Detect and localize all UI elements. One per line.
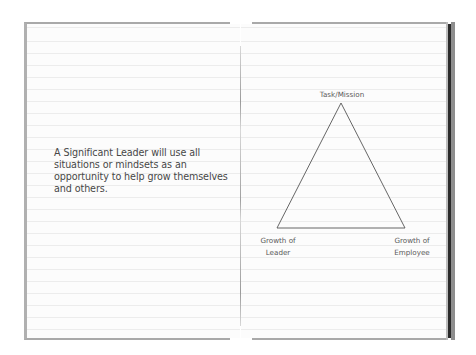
vertex-label-task-mission: Task/Mission	[316, 89, 368, 101]
label-line: Leader	[252, 247, 304, 259]
vertex-label-growth-of-employee: Growth of Employee	[382, 235, 442, 259]
right-page	[241, 22, 446, 340]
vertex-label-growth-of-leader: Growth of Leader	[252, 235, 304, 259]
book-spine	[240, 46, 241, 326]
label-line: Growth of	[382, 235, 442, 247]
label-line: Growth of	[252, 235, 304, 247]
label-line: Employee	[382, 247, 442, 259]
spine-top-notch	[230, 21, 252, 24]
spine-bottom-notch	[230, 338, 252, 341]
leader-quote: A Significant Leader will use all situat…	[54, 147, 234, 195]
cover-outer-edge	[451, 22, 455, 340]
back-cover-edge	[446, 22, 455, 340]
